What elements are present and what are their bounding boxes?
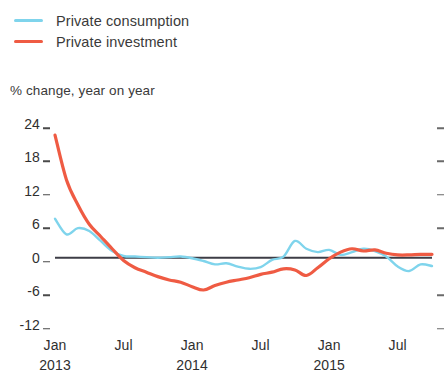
- y-tick-label: -6: [6, 283, 40, 299]
- y-tick-mark-right: [437, 127, 444, 129]
- x-tick-label: Jan: [181, 337, 204, 353]
- x-tick-year-label: 2015: [313, 357, 345, 373]
- x-tick-label: Jul: [252, 337, 270, 353]
- y-tick-mark-right: [437, 328, 444, 330]
- y-tick-mark-right: [437, 294, 444, 296]
- y-tick-mark-right: [437, 161, 444, 163]
- y-tick-mark: [43, 127, 50, 129]
- x-tick-label: Jan: [44, 337, 67, 353]
- x-tick-year-label: 2013: [39, 357, 71, 373]
- x-tick-year-label: 2014: [176, 357, 208, 373]
- x-tick-label: Jul: [114, 337, 132, 353]
- series-line-private-consumption: [55, 219, 432, 271]
- y-tick-mark: [43, 228, 50, 230]
- chart-plot-area: 24181260-6-12 Jan2013JulJan2014JulJan201…: [0, 0, 447, 380]
- y-tick-mark-right: [437, 194, 444, 196]
- series-lines: [55, 135, 432, 290]
- y-tick-mark: [43, 161, 50, 163]
- y-tick-label: 24: [6, 116, 40, 132]
- y-tick-mark-right: [437, 228, 444, 230]
- y-tick-label: -12: [6, 317, 40, 333]
- y-tick-mark: [43, 294, 50, 296]
- y-tick-label: 18: [6, 149, 40, 165]
- y-tick-mark: [43, 194, 50, 196]
- x-tick-label: Jan: [318, 337, 341, 353]
- y-tick-label: 6: [6, 216, 40, 232]
- y-tick-label: 12: [6, 183, 40, 199]
- x-tick-label: Jul: [389, 337, 407, 353]
- y-tick-label: 0: [6, 250, 40, 266]
- y-tick-mark: [43, 328, 50, 330]
- y-tick-mark: [43, 261, 50, 263]
- chart-svg: [0, 0, 447, 380]
